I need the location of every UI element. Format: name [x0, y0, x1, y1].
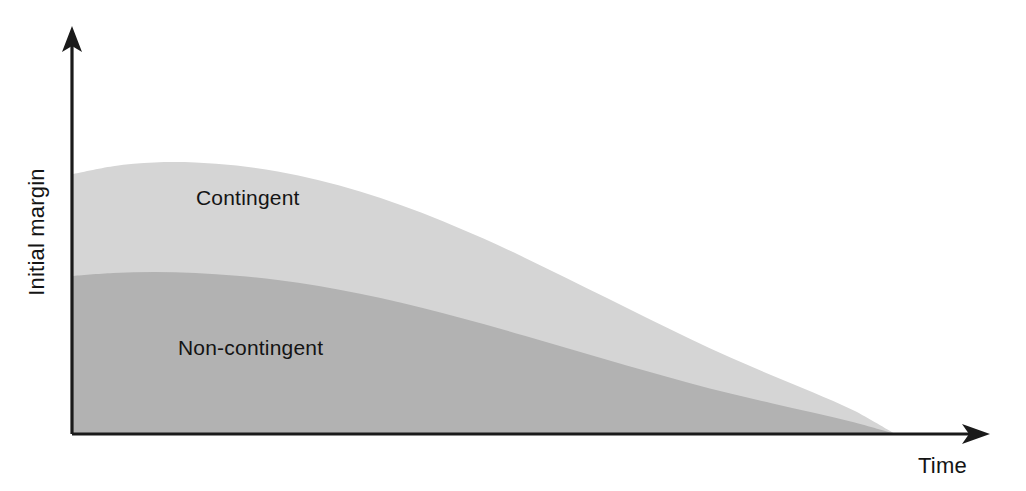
margin-profile-figure: Contingent Non-contingent Time Initial m… — [0, 0, 1026, 491]
contingent-series-label: Contingent — [196, 186, 300, 209]
y-axis-title: Initial margin — [24, 168, 49, 296]
chart-canvas: Contingent Non-contingent Time Initial m… — [0, 0, 1026, 491]
x-axis-title: Time — [918, 453, 967, 478]
non-contingent-series-label: Non-contingent — [178, 336, 323, 359]
